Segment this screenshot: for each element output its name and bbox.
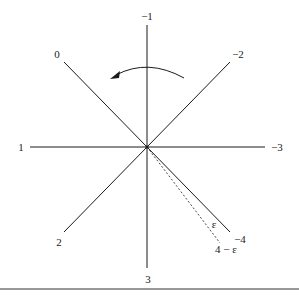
branch-cut-diagram: −1 −2 −3 −4 3 2 1 0 ε 4 − ε: [0, 0, 299, 303]
label-3: 3: [145, 273, 151, 285]
label-minus1: −1: [141, 10, 153, 22]
arrowhead-icon: [110, 71, 120, 79]
label-4-minus-epsilon: 4 − ε: [215, 243, 237, 255]
center-point: [145, 145, 148, 148]
label-0: 0: [54, 48, 60, 60]
rotation-arrow-arc: [116, 67, 184, 78]
label-1: 1: [18, 141, 24, 153]
label-minus3: −3: [271, 141, 283, 153]
label-epsilon: ε: [212, 218, 217, 230]
dashed-ray-4-minus-epsilon: [147, 147, 220, 243]
label-2: 2: [56, 236, 62, 248]
label-minus2: −2: [232, 48, 244, 60]
